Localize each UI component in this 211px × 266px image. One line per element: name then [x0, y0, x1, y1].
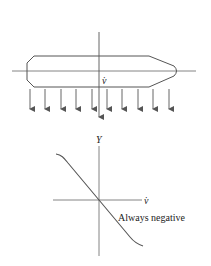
- bottom-graph: Y v̇ Always negative: [53, 134, 185, 256]
- always-negative-annotation: Always negative: [118, 212, 185, 223]
- x-axis-label: v̇: [144, 195, 149, 206]
- y-axis-label: Y: [96, 134, 103, 145]
- top-diagram: v̇: [12, 32, 196, 117]
- velocity-label: v̇: [102, 75, 107, 86]
- flow-arrows: [30, 89, 169, 109]
- ship-force-diagram: v̇ Y v̇ Always negative: [0, 0, 211, 266]
